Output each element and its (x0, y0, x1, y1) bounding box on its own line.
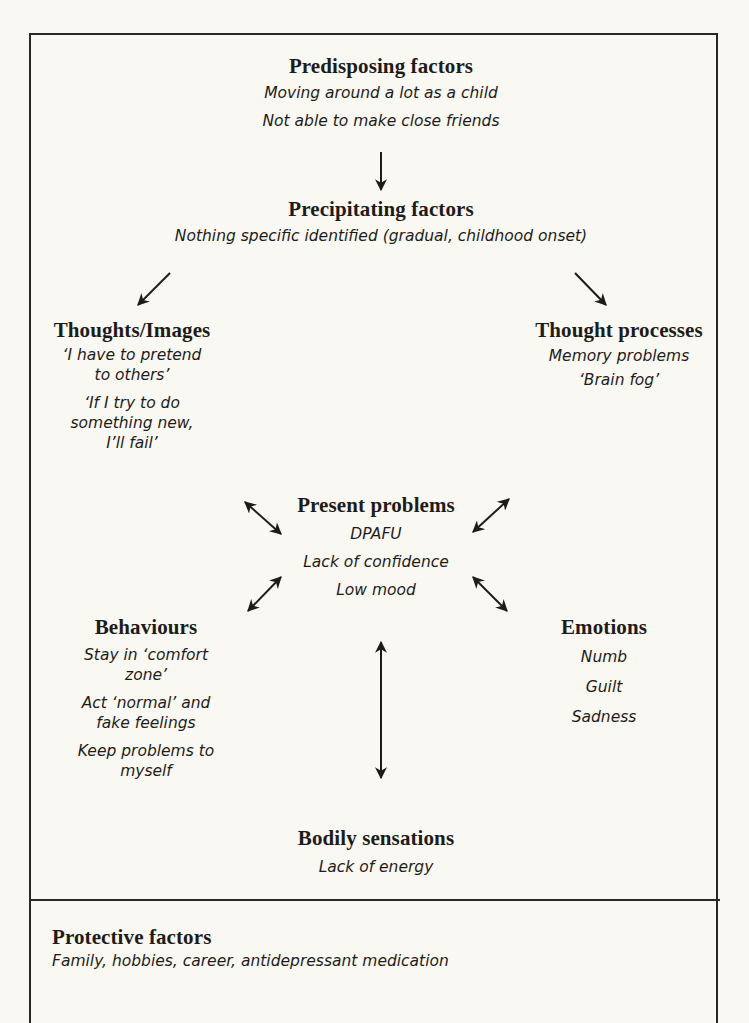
behaviours-section: Behaviours Stay in ‘comfort zone’ Act ‘n… (46, 615, 246, 781)
thoughts-images-section: Thoughts/Images ‘I have to pretend to ot… (32, 318, 232, 453)
thought-process-item: ‘Brain fog’ (509, 370, 729, 390)
thought-item-line: ‘I have to pretend (32, 345, 232, 365)
predisposing-section: Predisposing factors Moving around a lot… (263, 54, 500, 131)
behaviour-item-line: Stay in ‘comfort (46, 645, 246, 665)
present-problems-title: Present problems (266, 493, 486, 518)
thought-process-item: Memory problems (509, 346, 729, 366)
precipitating-item: Nothing specific identified (gradual, ch… (81, 226, 681, 246)
present-problem-item: Lack of confidence (266, 552, 486, 572)
behaviour-item-line: fake feelings (46, 713, 246, 733)
predisposing-item: Moving around a lot as a child (263, 83, 500, 103)
predisposing-item: Not able to make close friends (263, 111, 500, 131)
behaviour-item-line: zone’ (46, 665, 246, 685)
behaviour-item-line: myself (46, 761, 246, 781)
thought-processes-section: Thought processes Memory problems ‘Brain… (509, 318, 729, 390)
thoughts-images-title: Thoughts/Images (32, 318, 232, 343)
thought-item-line: ‘If I try to do (32, 393, 232, 413)
precipitating-section: Precipitating factors Nothing specific i… (81, 197, 681, 246)
thought-item-line: I’ll fail’ (32, 433, 232, 453)
bodily-sensations-section: Bodily sensations Lack of energy (256, 826, 496, 877)
emotion-item: Guilt (514, 677, 694, 697)
predisposing-title: Predisposing factors (263, 54, 500, 79)
thought-item-line: something new, (32, 413, 232, 433)
emotion-item: Numb (514, 647, 694, 667)
behaviour-item-line: Act ‘normal’ and (46, 693, 246, 713)
emotions-section: Emotions Numb Guilt Sadness (514, 615, 694, 727)
emotion-item: Sadness (514, 707, 694, 727)
present-problem-item: Low mood (266, 580, 486, 600)
bodily-sensation-item: Lack of energy (256, 857, 496, 877)
thought-processes-title: Thought processes (509, 318, 729, 343)
thought-item-line: to others’ (32, 365, 232, 385)
protective-title: Protective factors (52, 925, 449, 950)
protective-item: Family, hobbies, career, antidepressant … (52, 951, 449, 971)
bodily-sensations-title: Bodily sensations (256, 826, 496, 851)
protective-section: Protective factors Family, hobbies, care… (52, 925, 449, 971)
protective-divider (29, 899, 720, 901)
behaviour-item-line: Keep problems to (46, 741, 246, 761)
present-problems-section: Present problems DPAFU Lack of confidenc… (266, 493, 486, 600)
precipitating-title: Precipitating factors (81, 197, 681, 222)
behaviours-title: Behaviours (46, 615, 246, 640)
present-problem-item: DPAFU (266, 524, 486, 544)
emotions-title: Emotions (514, 615, 694, 640)
